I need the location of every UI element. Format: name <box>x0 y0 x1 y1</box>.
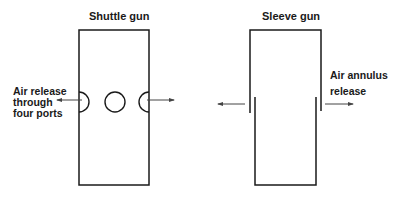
shuttle-gun-title: Shuttle gun <box>89 11 150 22</box>
air-gun-diagram <box>0 0 397 197</box>
sleeve-gun-lower-sleeve <box>255 97 316 185</box>
sleeve-annotation-line-1: Air annulus <box>330 70 388 81</box>
shuttle-gun-body <box>79 30 149 185</box>
shuttle-annotation-line-3: four ports <box>13 108 63 119</box>
sleeve-gun-title: Sleeve gun <box>262 11 320 22</box>
shuttle-left-port <box>79 92 89 112</box>
shuttle-center-port <box>105 92 125 112</box>
shuttle-right-port <box>139 92 149 112</box>
sleeve-gun-upper-body <box>250 30 321 113</box>
sleeve-annotation-line-2: release <box>330 86 366 97</box>
